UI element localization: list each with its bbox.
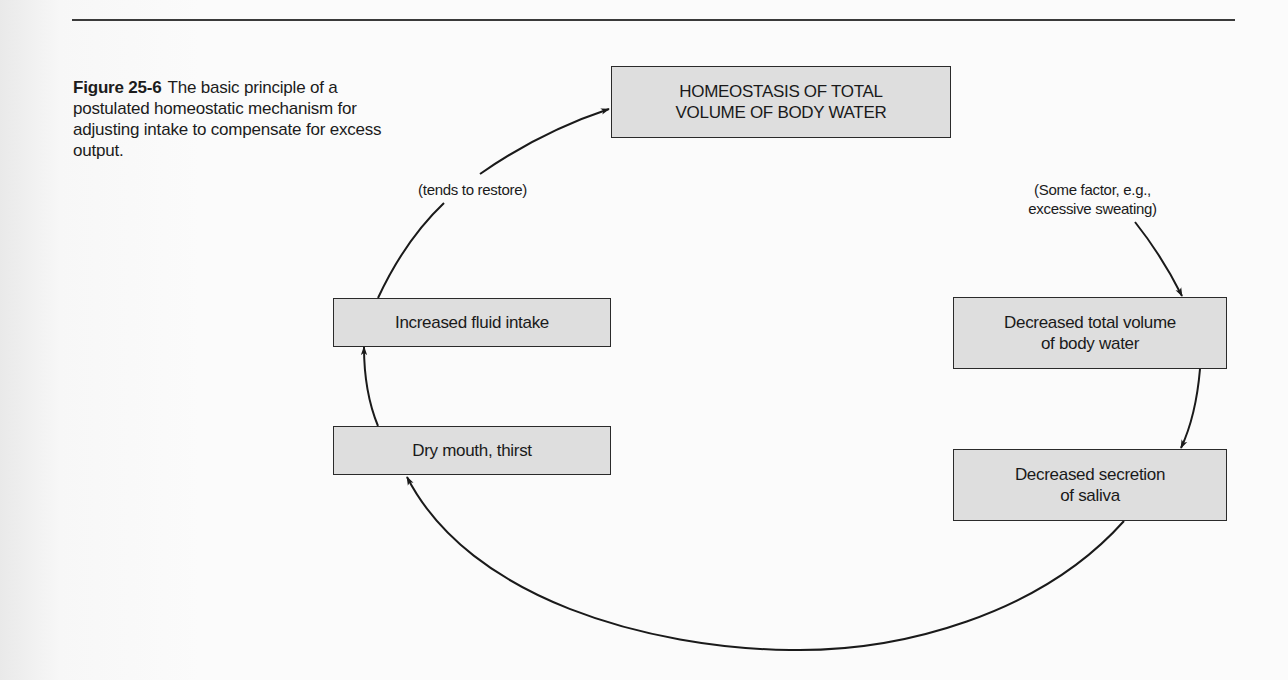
arrow-factor-to-volume [1135, 222, 1182, 296]
arrow-volume-to-saliva [1181, 369, 1200, 448]
node-increased-intake: Increased fluid intake [333, 298, 611, 347]
arrow-drymouth-to-intake [364, 347, 378, 426]
node-dry-mouth-label: Dry mouth, thirst [412, 440, 532, 461]
node-decreased-saliva-label: Decreased secretion of saliva [1015, 464, 1165, 506]
node-homeostasis: HOMEOSTASIS OF TOTAL VOLUME OF BODY WATE… [611, 66, 951, 138]
edge-label-some-factor: (Some factor, e.g., excessive sweating) [1010, 180, 1175, 218]
node-decreased-saliva: Decreased secretion of saliva [953, 449, 1227, 521]
node-increased-intake-label: Increased fluid intake [395, 312, 549, 333]
edge-label-tends-to-restore: (tends to restore) [400, 180, 545, 199]
node-homeostasis-label: HOMEOSTASIS OF TOTAL VOLUME OF BODY WATE… [676, 81, 887, 123]
arrow-label-to-homeostasis [480, 109, 609, 174]
node-decreased-volume: Decreased total volume of body water [953, 297, 1227, 369]
node-decreased-volume-label: Decreased total volume of body water [1004, 312, 1176, 354]
arrow-intake-to-label [378, 203, 444, 298]
node-dry-mouth: Dry mouth, thirst [333, 426, 611, 475]
